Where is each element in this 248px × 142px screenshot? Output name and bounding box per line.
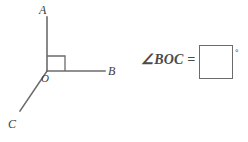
degree-symbol-label: ° [235, 49, 239, 58]
point-label-a: A [39, 4, 46, 16]
point-label-b: B [108, 65, 115, 77]
angle-problem-screenshot: A B C O ∠BOC = ° [0, 0, 248, 142]
angle-diagram: A B C O [0, 0, 130, 142]
answer-row: ∠BOC = ° [140, 44, 248, 84]
answer-input[interactable] [199, 45, 233, 79]
angle-expression-label: ∠BOC = [141, 51, 195, 68]
point-label-o: O [41, 73, 49, 84]
right-angle-marker-icon [47, 56, 65, 71]
point-label-c: C [8, 118, 16, 130]
